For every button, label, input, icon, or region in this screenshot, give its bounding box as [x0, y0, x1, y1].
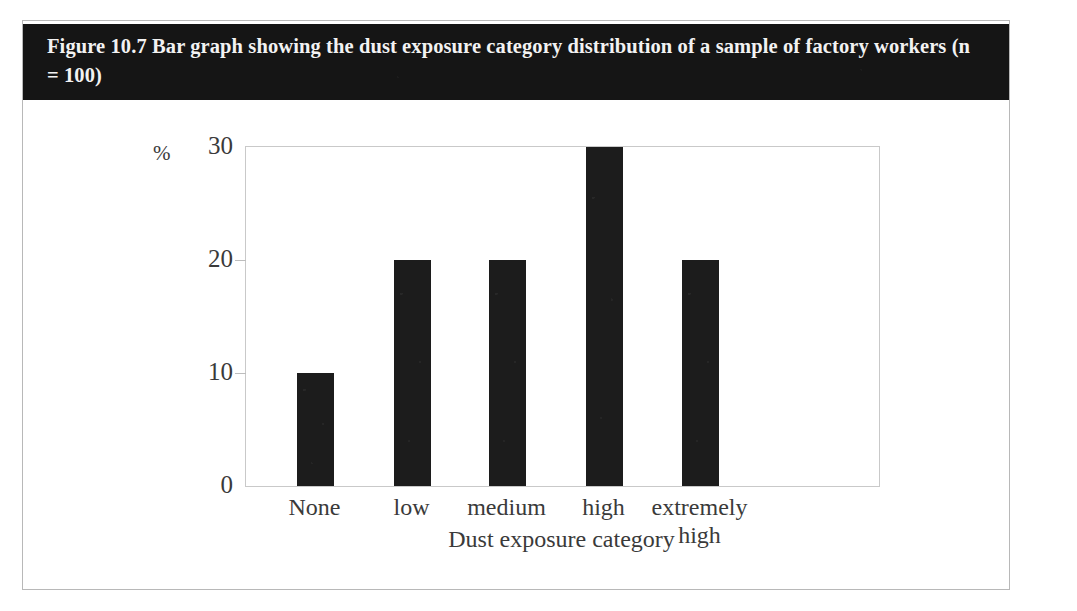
y-tick-label-10: 10 — [187, 359, 233, 384]
x-axis-title: Dust exposure category — [245, 526, 878, 553]
figure-caption-banner: Figure 10.7 Bar graph showing the dust e… — [23, 24, 1009, 100]
bar-high — [586, 147, 623, 486]
y-tick-20 — [235, 260, 246, 261]
x-tick-label-line: extremely — [635, 493, 765, 521]
bar-low — [394, 260, 431, 486]
figure-caption-text: Figure 10.7 Bar graph showing the dust e… — [47, 32, 977, 90]
y-tick-label-0: 0 — [187, 472, 233, 497]
bar-extremely-high — [682, 260, 719, 486]
x-tick-label-line: high — [635, 521, 765, 549]
chart-area: % Dust exposure category 0102030Nonelowm… — [23, 101, 1009, 589]
y-axis-unit-label: % — [153, 141, 171, 166]
bar-medium — [489, 260, 526, 486]
figure-card: Figure 10.7 Bar graph showing the dust e… — [22, 20, 1010, 590]
x-tick-label-extremely-high: extremelyhigh — [635, 493, 765, 549]
y-tick-label-20: 20 — [187, 246, 233, 271]
bar-none — [297, 373, 334, 486]
plot-frame — [245, 146, 880, 487]
y-tick-10 — [235, 373, 246, 374]
y-tick-label-30: 30 — [187, 133, 233, 158]
